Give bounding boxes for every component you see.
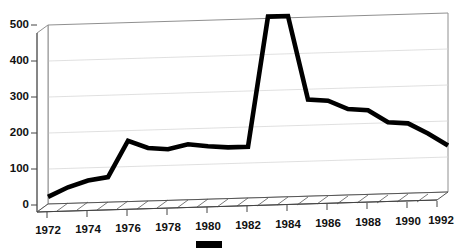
- y-tick-label: 200: [10, 126, 29, 138]
- x-tick-label: 1990: [395, 215, 421, 227]
- x-tick-label: 1974: [75, 223, 101, 235]
- x-tick-label: 1982: [235, 219, 261, 231]
- chart-legend: [196, 241, 222, 248]
- x-tick-label: 1980: [195, 220, 221, 232]
- depth-wall-left: [37, 25, 48, 212]
- chart-container: 500 400 300 200 100 0: [0, 0, 460, 249]
- y-tick-label: 100: [10, 162, 29, 174]
- x-tick-labels: 1972 1974 1976 1978 1980 1982 1984 1986 …: [35, 214, 454, 236]
- x-tick-label: 1988: [355, 216, 381, 228]
- x-tick-label: 1978: [155, 221, 181, 233]
- line-chart-3d: 500 400 300 200 100 0: [0, 0, 460, 249]
- x-tick-label: 1984: [275, 218, 301, 230]
- x-tick-label: 1992: [428, 214, 454, 226]
- y-axis: 500 400 300 200 100 0: [10, 18, 37, 212]
- y-tick-label: 500: [10, 18, 29, 30]
- x-tick-label: 1986: [315, 217, 341, 229]
- legend-swatch: [196, 241, 222, 248]
- y-tick-label: 400: [10, 54, 29, 66]
- x-tick-label: 1972: [35, 224, 61, 236]
- x-tick-label: 1976: [115, 222, 141, 234]
- y-tick-label: 300: [10, 90, 29, 102]
- y-tick-labels: 500 400 300 200 100 0: [10, 18, 29, 210]
- y-tick-label: 0: [23, 198, 29, 210]
